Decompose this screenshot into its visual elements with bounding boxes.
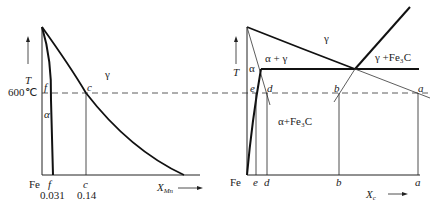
point-c-top-label: c [87, 81, 92, 93]
left-t-arrowhead-icon [26, 36, 30, 42]
point-f-top-label: f [44, 81, 49, 93]
alpha-fe3c-phase-label: α+Fe₃C [278, 115, 312, 127]
left-origin-label: Fe [29, 178, 40, 190]
point-d-bottom-label: d [264, 176, 270, 188]
gamma-boundary-curve [42, 27, 184, 175]
gamma-upper-boundary [247, 27, 355, 69]
phase-diagrams: T 600℃ f c γ α Fe f c 0.031 0.14 XMn [0, 0, 432, 204]
alpha-phase-label: α [44, 108, 50, 120]
point-d-top-label: d [267, 82, 273, 94]
right-t-arrowhead-icon [234, 36, 238, 42]
alpha-boundary-curve [42, 27, 53, 175]
point-b-bottom-label: b [336, 176, 342, 188]
right-x-arrowhead-icon [402, 192, 408, 196]
right-origin-label: Fe [230, 176, 241, 188]
temperature-600-label: 600℃ [8, 86, 37, 98]
c-composition-value: 0.14 [77, 189, 97, 201]
left-x-axis-label: XMn [156, 181, 174, 195]
point-e-bottom-label: e [253, 176, 258, 188]
point-e-top-label: e [250, 82, 255, 94]
gamma-phase-label-right: γ [323, 32, 329, 44]
gamma-phase-label: γ [104, 68, 110, 80]
gamma-fe3c-phase-label: γ +Fe₃C [374, 51, 411, 63]
alpha-gamma-phase-label: α + γ [265, 52, 287, 64]
left-x-arrowhead-icon [197, 186, 203, 190]
point-b-top-label: b [334, 82, 340, 94]
f-composition-value: 0.031 [40, 189, 65, 201]
right-diagram: T γ α + γ α γ +Fe₃C α+Fe₃C e d b a Fe e … [230, 7, 430, 202]
point-a-top-label: a [418, 82, 424, 94]
right-y-axis-label: T [233, 66, 240, 78]
right-x-axis-label: Xc [365, 188, 377, 202]
alpha-phase-label-right: α [249, 62, 255, 74]
left-y-axis-label: T [25, 74, 32, 86]
point-a-bottom-label: a [415, 176, 421, 188]
